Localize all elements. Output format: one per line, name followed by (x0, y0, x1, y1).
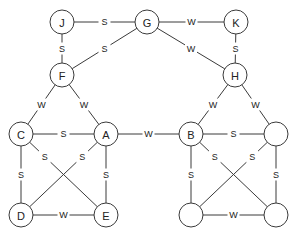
edge-label: S (15, 169, 27, 181)
edge-label: W (250, 99, 262, 111)
edge-label: W (78, 99, 90, 111)
node-label: C (17, 129, 25, 141)
svg-text:W: W (80, 100, 89, 110)
svg-text:S: S (59, 44, 65, 54)
svg-text:W: W (229, 210, 238, 220)
node-circle (264, 122, 288, 146)
edge-label: W (143, 128, 155, 140)
node-circle (264, 203, 288, 227)
svg-text:S: S (60, 129, 66, 139)
node-label: G (143, 17, 152, 29)
edge-label: W (185, 43, 197, 55)
node-r2 (179, 203, 203, 227)
edge-label: S (185, 169, 197, 181)
svg-text:W: W (187, 44, 196, 54)
svg-text:W: W (144, 129, 153, 139)
svg-text:S: S (103, 170, 109, 180)
node-label: D (17, 210, 25, 222)
edge-label: S (99, 43, 111, 55)
edge-label: S (76, 151, 88, 163)
svg-text:S: S (273, 170, 279, 180)
node-d: D (9, 203, 33, 227)
node-label: F (59, 70, 66, 82)
node-e: E (94, 203, 118, 227)
node-label: A (102, 129, 110, 141)
node-label: J (59, 17, 65, 29)
svg-text:S: S (18, 170, 24, 180)
svg-text:S: S (232, 44, 238, 54)
svg-text:W: W (251, 100, 260, 110)
edge-label: S (58, 128, 70, 140)
edge-label: W (186, 16, 198, 28)
edge-label: S (230, 43, 242, 55)
edge-label: S (246, 151, 258, 163)
edge-label: S (39, 151, 51, 163)
svg-text:W: W (187, 17, 196, 27)
svg-text:S: S (212, 152, 218, 162)
node-r1 (264, 122, 288, 146)
edge-label: W (228, 209, 240, 221)
svg-text:S: S (79, 152, 85, 162)
edge-label: S (270, 169, 282, 181)
svg-text:S: S (230, 129, 236, 139)
node-g: G (135, 10, 159, 34)
node-h: H (223, 63, 247, 87)
svg-text:S: S (249, 152, 255, 162)
node-a: A (94, 122, 118, 146)
edge-label: S (228, 128, 240, 140)
svg-text:S: S (101, 44, 107, 54)
node-j: J (50, 10, 74, 34)
svg-text:S: S (188, 170, 194, 180)
edge-label: S (56, 43, 68, 55)
node-label: B (187, 129, 194, 141)
edge-label: W (58, 209, 70, 221)
edge-label: W (36, 99, 48, 111)
node-circle (179, 203, 203, 227)
node-c: C (9, 122, 33, 146)
graph-diagram: SSSWWSWWWWSSSSSWWSSSSSW JGKFHCABDE (0, 0, 298, 238)
edge-label: W (207, 99, 219, 111)
edge-label: S (100, 169, 112, 181)
node-f: F (50, 63, 74, 87)
svg-text:W: W (37, 100, 46, 110)
node-k: K (224, 10, 248, 34)
node-label: H (231, 70, 239, 82)
node-label: K (232, 17, 240, 29)
edge-label: S (209, 151, 221, 163)
svg-text:S: S (42, 152, 48, 162)
edge-labels-layer: SSSWWSWWWWSSSSSWWSSSSSW (15, 16, 282, 221)
edge-label: S (99, 16, 111, 28)
svg-text:W: W (209, 100, 218, 110)
svg-text:W: W (59, 210, 68, 220)
svg-text:S: S (101, 17, 107, 27)
node-r3 (264, 203, 288, 227)
node-label: E (102, 210, 109, 222)
node-b: B (179, 122, 203, 146)
nodes-layer: JGKFHCABDE (9, 10, 288, 227)
